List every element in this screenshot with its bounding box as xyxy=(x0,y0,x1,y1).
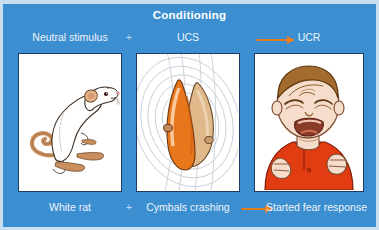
bottom-plus-sign: + xyxy=(122,201,136,213)
panel-cymbals xyxy=(136,53,240,192)
bottom-label-white-rat: White rat xyxy=(18,201,122,213)
bottom-label-cymbals-crashing: Cymbals crashing xyxy=(136,201,240,213)
bottom-label-started-fear-response: Started fear response xyxy=(266,201,376,213)
diagram-board: Conditioning Neutral stimulus + UCS UCR xyxy=(3,4,376,227)
top-label-neutral-stimulus: Neutral stimulus xyxy=(18,31,122,43)
crashing-cymbals-illustration xyxy=(137,54,238,190)
page-title: Conditioning xyxy=(3,9,376,21)
conditioning-diagram-image: Conditioning Neutral stimulus + UCS UCR xyxy=(0,0,379,230)
top-label-ucr: UCR xyxy=(254,31,364,43)
top-label-ucs: UCS xyxy=(136,31,240,43)
top-plus-sign: + xyxy=(122,31,136,43)
arrow-shaft xyxy=(241,208,267,211)
panel-white-rat xyxy=(18,53,122,192)
panel-crying-baby xyxy=(254,53,364,192)
crying-baby-illustration xyxy=(255,54,362,190)
white-rat-illustration xyxy=(19,54,120,190)
